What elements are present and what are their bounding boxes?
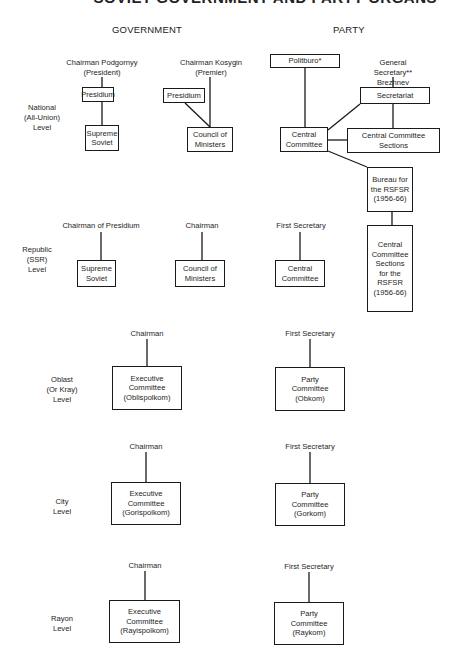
box-politburo: Politburo* <box>270 54 340 68</box>
label-chairman-republic: Chairman <box>186 221 219 231</box>
label-chairman-kosygin: Chairman Kosygin (Premier) <box>180 58 242 78</box>
level-label-republic: Republic (SSR) Level <box>22 245 52 275</box>
box-bureau-rsfsr: Bureau for the RSFSR (1956-66) <box>367 167 413 212</box>
label-chairman-oblast: Chairman <box>131 329 164 339</box>
label-chairman-rayon: Chairman <box>129 561 162 571</box>
box-gorispolkom: Executive Committee (Gorispolkom) <box>111 482 181 525</box>
label-general-secretary: General Secretary** Brezhnev <box>361 58 425 88</box>
box-obkom: Party Committee (Obkom) <box>275 367 345 411</box>
level-label-city: City Level <box>53 497 71 517</box>
box-gorkom: Party Committee (Gorkom) <box>275 483 345 526</box>
label-first-secretary-oblast: First Secretary <box>285 329 334 339</box>
level-label-rayon: Rayon Level <box>51 614 73 634</box>
box-cc-sections-rsfsr: Central Committee Sections for the RSFSR… <box>367 225 413 312</box>
box-council-of-ministers-national: Council of Ministers <box>187 127 233 152</box>
box-secretariat: Secretariat <box>360 87 430 104</box>
box-raykom: Party Committee (Raykom) <box>274 602 344 645</box>
box-oblispolkom: Executive Committee (Oblispolkom) <box>112 366 182 410</box>
label-chairman-of-presidium: Chairman of Presidium <box>62 221 139 231</box>
box-supreme-soviet-national: Supreme Soviet <box>85 125 119 151</box>
label-first-secretary-rayon: First Secretary <box>284 562 333 572</box>
level-label-national: National (All-Union) Level <box>24 103 60 133</box>
box-central-committee-sections: Central Committee Sections <box>347 128 440 153</box>
label-first-secretary-city: First Secretary <box>285 442 334 452</box>
box-council-of-ministers-republic: Council of Ministers <box>175 260 225 287</box>
label-chairman-podgornyy: Chairman Podgornyy (President) <box>66 58 137 78</box>
box-presidium-council: Presidium <box>163 88 205 103</box>
box-presidium-supreme-soviet: Presidium <box>82 87 114 102</box>
box-central-committee-republic: Central Committee <box>275 260 325 287</box>
label-chairman-city: Chairman <box>130 442 163 452</box>
box-rayispolkom: Executive Committee (Rayispolkom) <box>109 600 180 643</box>
label-first-secretary-republic: First Secretary <box>276 221 325 231</box>
level-label-oblast: Oblast (Or Kray) Level <box>46 375 77 405</box>
box-supreme-soviet-republic: Supreme Soviet <box>77 260 116 287</box>
box-central-committee-national: Central Committee <box>280 127 328 152</box>
